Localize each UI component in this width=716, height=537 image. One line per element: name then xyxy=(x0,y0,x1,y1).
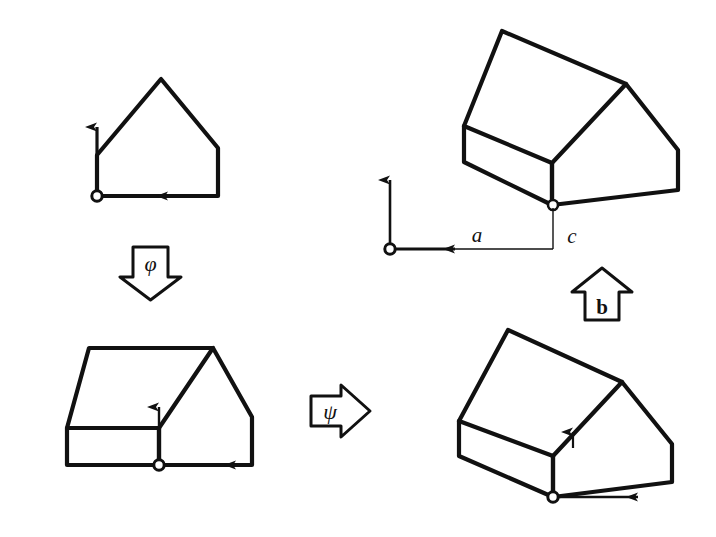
map-label-phi: φ xyxy=(144,251,156,276)
map-label-b: b xyxy=(596,295,608,319)
prism-top-face-bottom-right xyxy=(459,330,622,456)
origin-marker-bottom-left xyxy=(154,460,164,470)
map-arrow-b: b xyxy=(572,268,632,320)
dimension-label-a: a xyxy=(472,223,483,247)
panel-bottom-left xyxy=(67,348,252,470)
origin-marker-top-left xyxy=(92,191,102,201)
origin-marker-top-right xyxy=(385,244,395,254)
panel-bottom-right xyxy=(459,330,672,502)
map-arrow-phi: φ xyxy=(120,247,181,300)
dimension-label-c: c xyxy=(567,224,577,248)
panel-top-left xyxy=(92,79,218,201)
map-arrow-psi: ψ xyxy=(311,385,370,437)
prism-front-band-bottom-left xyxy=(67,428,159,465)
block-arrow-right-psi xyxy=(311,385,370,437)
panel-top-right: a c xyxy=(385,31,678,254)
coordinate-frame-top-right xyxy=(385,180,455,254)
commutative-diagram-svg: φ ψ xyxy=(0,0,716,537)
map-label-psi: ψ xyxy=(323,399,337,424)
origin-marker-bottom-right xyxy=(548,492,558,502)
prism-top-face-bottom-left xyxy=(67,348,213,428)
prism-top-face-top-right xyxy=(464,31,626,163)
house-outline-2d xyxy=(97,79,218,196)
diagram-canvas: φ ψ xyxy=(0,0,716,537)
prism-front-band-bottom-right xyxy=(459,421,553,497)
prism-front-band-top-right xyxy=(464,126,552,205)
coordinate-frame-top-left xyxy=(92,127,168,201)
